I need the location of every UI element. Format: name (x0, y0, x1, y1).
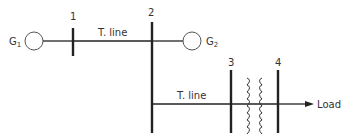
generator-g2: G2 (183, 32, 218, 50)
bus-1-label: 1 (70, 11, 76, 22)
generator-g1: G1 (9, 32, 43, 50)
generator-g1-label: G1 (9, 36, 21, 49)
generator-g1-icon (25, 32, 43, 50)
bus-3-label: 3 (228, 57, 234, 68)
generator-g2-icon (183, 32, 201, 50)
bus-2: 2 (148, 7, 154, 133)
generator-g2-label: G2 (206, 36, 218, 49)
bus-1: 1 (70, 11, 76, 56)
bus-4-label: 4 (275, 57, 281, 68)
load: Load (278, 99, 341, 110)
one-line-diagram: G1 T. line 1 2 G2 T. line 3 4 Lo (0, 0, 346, 138)
bus-4: 4 (275, 57, 281, 133)
transmission-line-2-3-label: T. line (176, 90, 206, 101)
transmission-line-1-2-label: T. line (97, 27, 127, 38)
transformer-secondary-coil-icon (260, 78, 263, 134)
load-arrow-icon (305, 101, 314, 107)
load-label: Load (317, 99, 341, 110)
bus-3: 3 (228, 57, 234, 133)
transformer-3-4 (231, 78, 278, 134)
bus-2-label: 2 (148, 7, 154, 18)
transformer-primary-coil-icon (247, 78, 250, 134)
